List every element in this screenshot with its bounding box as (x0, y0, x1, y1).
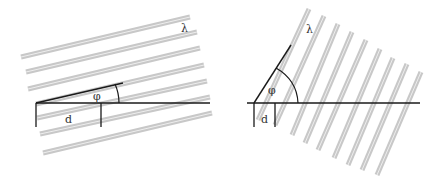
right-diagram: λ φ d (247, 9, 421, 175)
left-phi-label: φ (93, 90, 101, 103)
right-lambda-label: λ (306, 23, 313, 36)
diagram-canvas: λ φ d (0, 0, 442, 180)
left-lambda-label: λ (181, 22, 188, 35)
right-phi-label: φ (268, 84, 276, 97)
left-d-label: d (65, 113, 72, 126)
right-d-label: d (261, 113, 268, 126)
right-wave-stripes (258, 9, 421, 175)
left-diagram: λ φ d (21, 17, 212, 153)
